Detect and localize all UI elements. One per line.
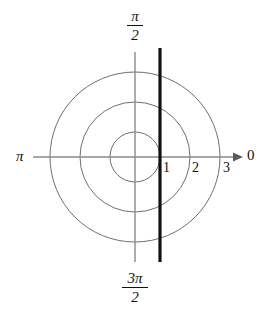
radial-tick-label-3: 3 [223,161,230,175]
axis-label-pi-over-2-numerator: π [124,8,146,25]
axis-label-pi: π [16,149,24,164]
polar-axis-arrowhead-icon [233,153,243,162]
axis-label-3pi-over-2: 3π 2 [117,270,153,305]
axis-label-3pi-over-2-denominator: 2 [117,288,153,305]
axis-label-pi-over-2-denominator: 2 [124,26,146,43]
radial-tick-label-1: 1 [163,161,170,175]
axis-label-zero: 0 [247,148,255,163]
polar-axis-horizontal [33,153,243,162]
polar-plot-figure: π 2 3π 2 π 0 1 2 3 [0,0,268,318]
axis-label-3pi-over-2-numerator: 3π [117,270,153,287]
axis-label-pi-over-2: π 2 [124,8,146,43]
radial-tick-label-2: 2 [192,161,199,175]
